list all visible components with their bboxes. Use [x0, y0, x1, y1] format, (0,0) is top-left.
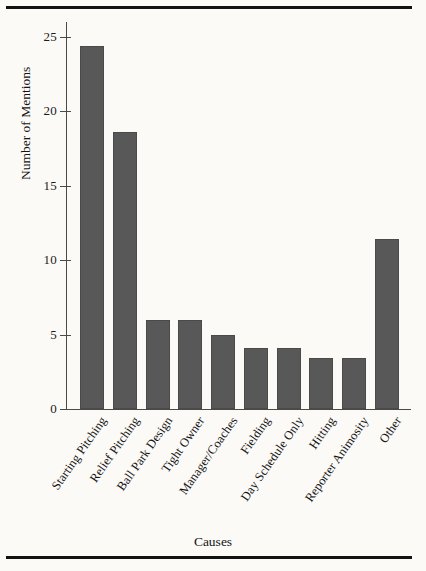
- bar: [211, 335, 235, 409]
- y-tick-mark: [60, 37, 71, 38]
- bar: [80, 46, 104, 409]
- x-tick-label: Reporter Animosity: [302, 414, 372, 505]
- y-tick-mark: [60, 260, 71, 261]
- bar: [113, 132, 137, 409]
- x-axis-title: Causes: [0, 534, 426, 550]
- y-tick-mark: [60, 335, 71, 336]
- y-tick-mark: [60, 409, 71, 410]
- x-axis-title-label: Causes: [194, 534, 232, 549]
- y-tick-label: 15: [44, 178, 57, 194]
- bar: [146, 320, 170, 409]
- bar: [178, 320, 202, 409]
- bar: [375, 239, 399, 409]
- y-tick-mark: [60, 186, 71, 187]
- x-tick-label: Other: [376, 414, 405, 446]
- figure-top-rule: [6, 6, 412, 9]
- y-tick-label: 25: [44, 29, 57, 45]
- y-tick-label: 20: [44, 103, 57, 119]
- y-axis-title-label: Number of Mentions: [18, 67, 34, 180]
- y-tick-label: 5: [50, 327, 57, 343]
- y-tick-mark: [60, 111, 71, 112]
- bar: [309, 358, 333, 409]
- plot-area: 0510152025 Starting PitchingRelief Pitch…: [66, 22, 411, 409]
- y-axis-line: [66, 22, 67, 410]
- bar: [244, 348, 268, 409]
- x-axis-line: [66, 409, 411, 410]
- x-tick-label: Hitting: [307, 414, 340, 452]
- y-tick-label: 0: [50, 401, 57, 417]
- y-tick-label: 10: [44, 252, 57, 268]
- figure: Number of Mentions 0510152025 Starting P…: [0, 0, 426, 571]
- bar: [342, 358, 366, 409]
- figure-bottom-rule: [6, 556, 412, 559]
- bar: [277, 348, 301, 409]
- x-tick-label: Day Schedule Only: [237, 414, 306, 504]
